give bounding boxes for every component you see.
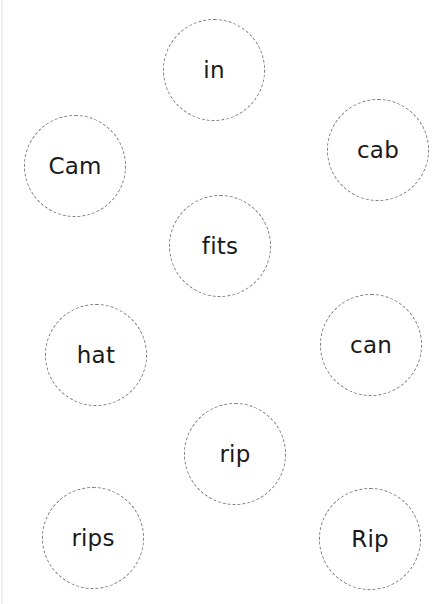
word-circle-rip-capital[interactable]: Rip: [319, 488, 421, 590]
word-circle-in[interactable]: in: [163, 19, 265, 121]
word-label: can: [350, 334, 392, 357]
word-label: rip: [219, 443, 250, 466]
page-edge-divider: [1, 0, 3, 604]
word-circle-rip[interactable]: rip: [184, 403, 286, 505]
word-label: hat: [77, 344, 115, 367]
word-circle-cam[interactable]: Cam: [24, 115, 126, 217]
word-circle-rips[interactable]: rips: [42, 487, 144, 589]
word-label: Cam: [48, 155, 101, 178]
word-circle-fits[interactable]: fits: [169, 195, 271, 297]
word-circle-can[interactable]: can: [320, 294, 422, 396]
word-circle-cab[interactable]: cab: [327, 99, 429, 201]
word-label: rips: [71, 527, 114, 550]
word-label: fits: [202, 235, 238, 258]
word-circle-hat[interactable]: hat: [45, 304, 147, 406]
word-label: Rip: [351, 528, 389, 551]
word-label: in: [203, 59, 224, 82]
word-label: cab: [357, 139, 399, 162]
